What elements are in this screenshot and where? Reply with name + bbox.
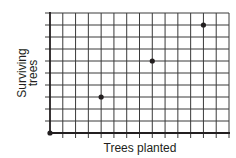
data-point <box>99 94 104 99</box>
data-point <box>150 58 155 63</box>
grid-lines <box>45 13 229 138</box>
scatter-chart <box>0 0 236 158</box>
data-point <box>201 22 206 27</box>
x-axis-label: Trees planted <box>95 141 185 155</box>
data-point <box>47 130 52 135</box>
